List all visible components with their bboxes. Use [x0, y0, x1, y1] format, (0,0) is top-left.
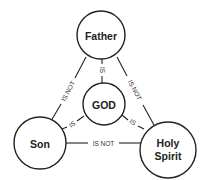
edge-father-spirit-line-a: [117, 57, 127, 76]
edge-son-spirit-label: IS NOT: [93, 140, 115, 147]
edge-spirit-god-line-a: [122, 115, 128, 120]
edge-son-god-line-b: [77, 116, 84, 121]
edge-spirit-god-label: IS: [128, 117, 138, 127]
edge-son-god-label: IS: [67, 119, 77, 129]
edge-father-son-line-a: [75, 57, 86, 78]
node-father-label: Father: [85, 30, 117, 42]
trinity-diagram: Father GOD Son Holy Spirit IS NOT IS NOT…: [0, 0, 204, 180]
edge-father-spirit-label: IS NOT: [127, 79, 143, 101]
edge-son-god-line-a: [62, 127, 67, 129]
edge-father-god-label: IS: [99, 67, 106, 74]
edge-father-spirit-line-b: [143, 105, 154, 125]
node-spirit-label-line2: Spirit: [155, 150, 182, 162]
edge-spirit-god-line-b: [138, 126, 144, 129]
node-god-label: GOD: [92, 99, 116, 111]
node-son-label: Son: [30, 138, 50, 150]
node-spirit-label-line1: Holy: [157, 137, 180, 149]
edge-father-son-label: IS NOT: [60, 80, 76, 102]
edge-father-son-line-b: [51, 104, 61, 121]
